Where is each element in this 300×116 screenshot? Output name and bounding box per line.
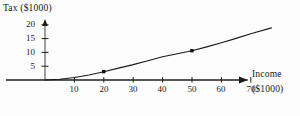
data-point-marker <box>190 49 193 52</box>
x-axis <box>6 77 248 84</box>
y-tick-label-10: 10 <box>15 47 35 57</box>
x-axis-title: Income <box>252 69 282 79</box>
y-tick-label-5: 5 <box>15 61 35 71</box>
y-axis-title: Tax ($1000) <box>3 3 52 13</box>
x-axis-arrow-icon <box>239 77 248 84</box>
x-tick-label-40: 40 <box>152 84 172 94</box>
x-tick-label-60: 60 <box>211 84 231 94</box>
x-tick-label-70: 70 <box>241 84 261 94</box>
tax-income-figure: Tax ($1000) Income ($1000) 5 10 15 20 10… <box>0 0 300 116</box>
x-tick-label-30: 30 <box>123 84 143 94</box>
y-axis <box>42 19 48 80</box>
x-tick-label-20: 20 <box>94 84 114 94</box>
tax-curve <box>45 28 271 80</box>
y-tick-label-15: 15 <box>15 33 35 43</box>
data-point-marker <box>102 70 105 73</box>
y-tick-label-20: 20 <box>15 19 35 29</box>
chart-plot-area <box>0 0 300 116</box>
x-tick-label-10: 10 <box>64 84 84 94</box>
x-tick-label-50: 50 <box>182 84 202 94</box>
